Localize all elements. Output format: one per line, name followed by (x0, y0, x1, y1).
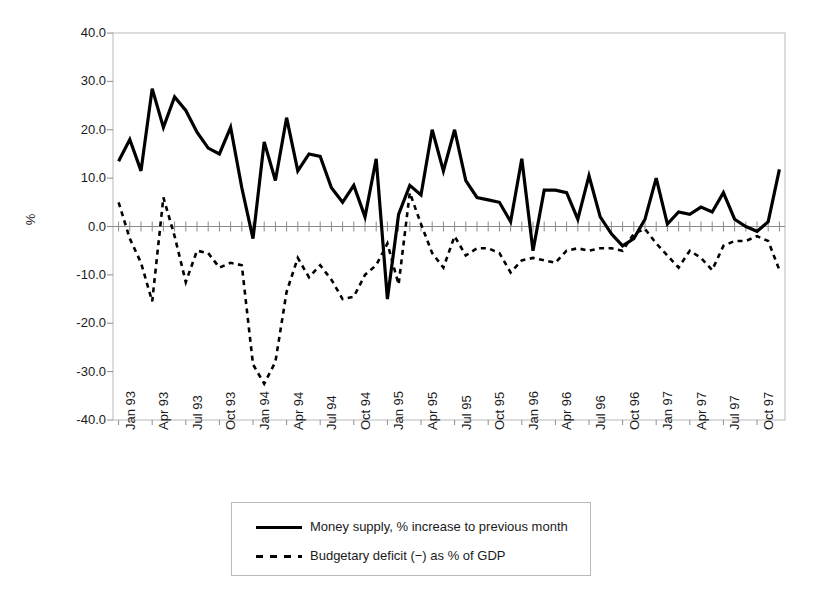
x-axis-tick-label: Jan 95 (392, 391, 405, 430)
x-axis-tick-label: Jul 96 (594, 395, 607, 430)
x-axis-tick-label: Oct 95 (493, 392, 506, 430)
x-axis-tick-label: Oct 93 (224, 392, 237, 430)
chart-legend: Money supply, % increase to previous mon… (231, 502, 591, 576)
legend-swatch-solid-icon (256, 521, 302, 533)
x-axis-tick-label: Jan 94 (258, 391, 271, 430)
x-axis-tick-label: Apr 97 (695, 392, 708, 430)
x-axis-tick-label: Jan 96 (527, 391, 540, 430)
x-axis-tick-label: Jul 95 (460, 395, 473, 430)
legend-label-budgetary-deficit: Budgetary deficit (−) as % of GDP (310, 549, 505, 563)
x-axis-tick-label: Jul 94 (325, 395, 338, 430)
chart-container: % 40.030.020.010.00.0-10.0-20.0-30.0-40.… (0, 0, 818, 605)
x-axis-tick-label: Oct 97 (762, 392, 775, 430)
legend-swatch-dashed-icon (256, 550, 302, 562)
legend-item-money-supply: Money supply, % increase to previous mon… (256, 517, 568, 537)
x-axis-tick-label: Jul 93 (191, 395, 204, 430)
x-axis-tick-label: Jan 93 (124, 391, 137, 430)
x-axis-tick-label: Apr 93 (157, 392, 170, 430)
x-axis-tick-label: Apr 95 (426, 392, 439, 430)
legend-label-money-supply: Money supply, % increase to previous mon… (310, 520, 568, 534)
x-axis-tick-label: Apr 96 (560, 392, 573, 430)
x-axis-tick-label: Jan 97 (661, 391, 674, 430)
x-axis-tick-label: Jul 97 (728, 395, 741, 430)
legend-item-budgetary-deficit: Budgetary deficit (−) as % of GDP (256, 546, 505, 566)
x-axis-tick-label: Oct 96 (628, 392, 641, 430)
x-axis-tick-label: Oct 94 (359, 392, 372, 430)
x-axis-tick-labels: Jan 93Apr 93Jul 93Oct 93Jan 94Apr 94Jul … (0, 0, 818, 500)
x-axis-tick-label: Apr 94 (292, 392, 305, 430)
